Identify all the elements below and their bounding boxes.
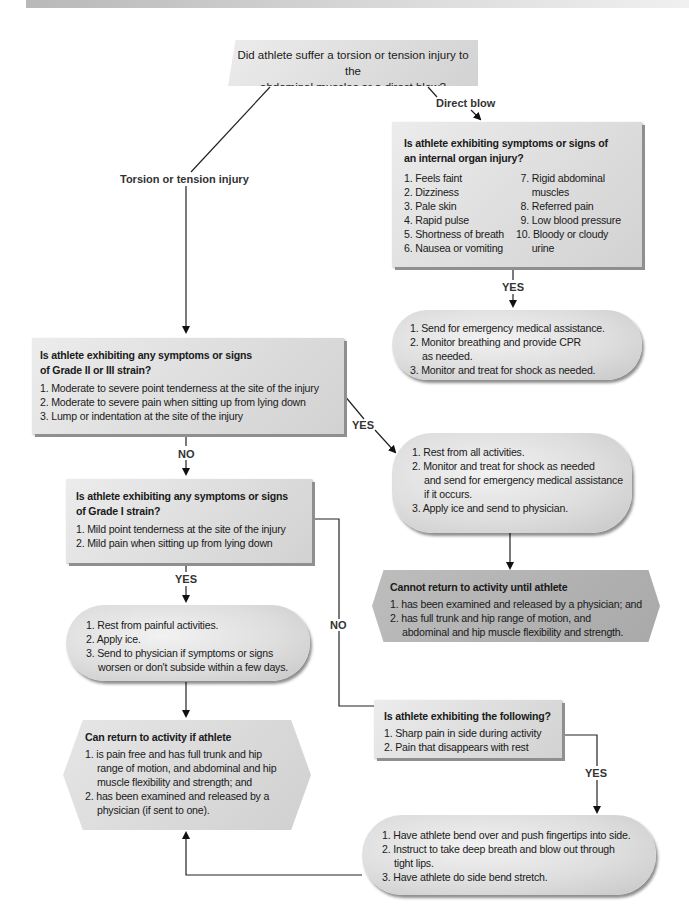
side-pain-question-box: Is athlete exhibiting the following? 1. …	[374, 700, 562, 758]
symptom-item: 6. Nausea or vomiting	[404, 241, 507, 255]
action-item: 2. Monitor breathing and provide CPR	[410, 335, 607, 349]
condition-item: range of motion, and abdominal and hip	[85, 761, 273, 775]
condition-item: 2. has full trunk and hip range of motio…	[390, 611, 622, 625]
grade1-title-1: Is athlete exhibiting any symptoms or si…	[76, 489, 284, 504]
grade2-3-actions-box: 1. Rest from all activities. 2. Monitor …	[392, 433, 632, 533]
symptom-item: 3. Lump or indentation at the site of th…	[40, 409, 312, 423]
symptom-item: 1. Sharp pain in side during activity	[384, 726, 539, 740]
symptom-item: 4. Rapid pulse	[404, 213, 507, 227]
no-label-grade2-3: NO	[178, 448, 195, 460]
symptom-item: muscles	[516, 185, 621, 199]
start-question-box: Did athlete suffer a torsion or tension …	[228, 40, 478, 86]
internal-organ-title-2: an internal organ injury?	[404, 151, 612, 166]
action-item: tight lips.	[382, 856, 616, 870]
symptom-item: 3. Pale skin	[404, 199, 507, 213]
symptom-item: 1. Mild point tenderness at the site of …	[76, 522, 284, 536]
no-label-grade1: NO	[330, 619, 347, 631]
emergency-actions-box: 1. Send for emergency medical assistance…	[392, 310, 642, 380]
action-item: 3. Send to physician if symptoms or sign…	[86, 646, 274, 660]
action-item: 1. Have athlete bend over and push finge…	[382, 828, 616, 842]
grade1-question-box: Is athlete exhibiting any symptoms or si…	[66, 479, 312, 563]
action-item: and send for emergency medical assistanc…	[412, 473, 596, 487]
internal-organ-question-box: Is athlete exhibiting symptoms or signs …	[392, 122, 642, 267]
symptom-item: 2. Mild pain when sitting up from lying …	[76, 536, 284, 550]
symptom-item: 8. Referred pain	[516, 199, 621, 213]
symptom-item: 7. Rigid abdominal	[516, 171, 621, 185]
yes-label-internal: YES	[502, 281, 524, 293]
action-item: worsen or don't subside within a few day…	[86, 660, 274, 674]
action-item: 1. Rest from painful activities.	[86, 618, 274, 632]
side-actions-box: 1. Have athlete bend over and push finge…	[362, 815, 656, 895]
symptom-item: urine	[516, 241, 621, 255]
grade2-3-question-box: Is athlete exhibiting any symptoms or si…	[32, 338, 344, 434]
grade2-3-title-1: Is athlete exhibiting any symptoms or si…	[40, 348, 312, 363]
torsion-label: Torsion or tension injury	[120, 173, 249, 185]
symptom-item: 5. Shortness of breath	[404, 227, 507, 241]
action-item: 1. Rest from all activities.	[412, 445, 596, 459]
condition-item: 1. is pain free and has full trunk and h…	[85, 747, 273, 761]
cannot-return-box: Cannot return to activity until athlete …	[372, 570, 660, 642]
symptom-item: 1. Feels faint	[404, 171, 507, 185]
action-item: as needed.	[410, 349, 607, 363]
symptom-item: 2. Dizziness	[404, 185, 507, 199]
yes-label-side: YES	[585, 767, 607, 779]
can-return-title: Can return to activity if athlete	[85, 730, 273, 745]
symptom-item: 9. Low blood pressure	[516, 213, 621, 227]
yes-label-grade1: YES	[175, 573, 197, 585]
action-item: 1. Send for emergency medical assistance…	[410, 321, 607, 335]
grade1-actions-box: 1. Rest from painful activities. 2. Appl…	[66, 605, 310, 681]
condition-item: muscle flexibility and strength; and	[85, 775, 273, 789]
condition-item: 1. has been examined and released by a p…	[390, 597, 622, 611]
grade2-3-title-2: of Grade II or III strain?	[40, 363, 312, 378]
action-item: 3. Monitor and treat for shock as needed…	[410, 363, 607, 377]
symptom-item: 2. Moderate to severe pain when sitting …	[40, 395, 312, 409]
symptom-item: 1. Moderate to severe point tenderness a…	[40, 381, 312, 395]
direct-blow-label: Direct blow	[436, 97, 495, 109]
action-item: 3. Have athlete do side bend stretch.	[382, 870, 616, 884]
symptom-item: 2. Pain that disappears with rest	[384, 740, 539, 754]
condition-item: abdominal and hip muscle flexibility and…	[390, 625, 622, 639]
condition-item: physician (if sent to one).	[85, 803, 273, 817]
action-item: 2. Monitor and treat for shock as needed	[412, 459, 596, 473]
start-question-line1: Did athlete suffer a torsion or tension …	[228, 47, 478, 79]
yes-label-grade2-3: YES	[352, 419, 374, 431]
action-item: 2. Instruct to take deep breath and blow…	[382, 842, 616, 856]
action-item: 2. Apply ice.	[86, 632, 274, 646]
can-return-box: Can return to activity if athlete 1. is …	[63, 720, 311, 830]
cannot-return-title: Cannot return to activity until athlete	[390, 580, 622, 595]
symptom-item: 10. Bloody or cloudy	[516, 227, 621, 241]
internal-organ-title-1: Is athlete exhibiting symptoms or signs …	[404, 136, 612, 151]
action-item: if it occurs.	[412, 487, 596, 501]
condition-item: 2. has been examined and released by a	[85, 789, 273, 803]
grade1-title-2: of Grade I strain?	[76, 504, 284, 519]
side-pain-title: Is athlete exhibiting the following?	[384, 709, 539, 724]
action-item: 3. Apply ice and send to physician.	[412, 501, 596, 515]
